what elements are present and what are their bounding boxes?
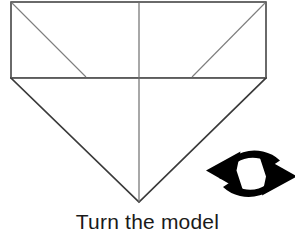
origami-step-figure: Turn the model (0, 0, 295, 230)
turn-over-circular-arrows-icon (206, 151, 295, 197)
step-caption: Turn the model (0, 210, 295, 230)
diagram-canvas (0, 0, 295, 230)
